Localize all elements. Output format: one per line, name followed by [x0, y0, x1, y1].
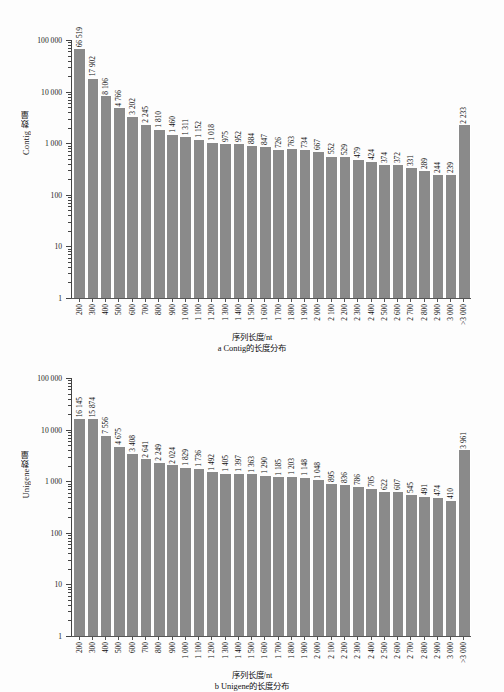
y-axis-minor-tick [68, 231, 71, 232]
y-axis-minor-tick [68, 592, 71, 593]
y-axis-minor-tick [68, 249, 71, 250]
x-axis-tick-label: 700 [141, 304, 150, 315]
bar-value-label: 884 [247, 133, 256, 144]
x-axis-tick-label: 1 700 [274, 642, 283, 659]
x-axis-tick [410, 637, 411, 640]
bar [445, 501, 458, 636]
bar [179, 137, 192, 298]
y-axis-minor-tick [68, 605, 71, 606]
bar [286, 149, 299, 298]
y-axis-minor-tick [68, 405, 71, 406]
bar-value-label: 2 245 [141, 106, 150, 123]
bar-value-label: 1 311 [181, 119, 190, 135]
x-axis-tick [437, 299, 438, 302]
bar-value-label: 952 [234, 131, 243, 142]
x-axis-tick-label: 1 800 [287, 304, 296, 321]
x-axis-tick [92, 637, 93, 640]
bar [140, 459, 153, 636]
y-axis-minor-tick [68, 100, 71, 101]
x-axis-tick-label: 2 000 [313, 642, 322, 659]
y-axis-minor-tick [68, 76, 71, 77]
bar-value-label: 289 [420, 158, 429, 169]
x-axis-tick-label: 1 000 [181, 642, 190, 659]
y-axis-minor-tick [68, 386, 71, 387]
y-axis-tick-label: 100 [6, 528, 62, 537]
bar [299, 150, 312, 298]
bar [259, 147, 272, 298]
y-axis-tick [66, 533, 71, 534]
bar-value-label: 607 [393, 479, 402, 490]
bar-value-label: 7 556 [101, 417, 110, 434]
bar-value-label: 726 [274, 137, 283, 148]
y-axis-minor-tick [68, 206, 71, 207]
x-axis-tick-label: 1 700 [274, 304, 283, 321]
x-axis-tick [79, 637, 80, 640]
bar [432, 175, 445, 298]
x-axis-tick [357, 637, 358, 640]
bar [87, 79, 100, 298]
bar-value-label: 529 [340, 144, 349, 155]
y-axis-tick-label: 1 [6, 632, 62, 641]
y-axis-minor-tick [68, 560, 71, 561]
bar-value-label: 3 202 [128, 98, 137, 115]
bar-value-label: 763 [287, 136, 296, 147]
y-axis-minor-tick [68, 254, 71, 255]
x-axis-tick-label: 2 200 [340, 642, 349, 659]
x-axis-tick-label: 2 800 [420, 304, 429, 321]
bar [193, 140, 206, 298]
bar [246, 474, 259, 636]
y-axis-line [71, 40, 72, 298]
bar [219, 474, 232, 636]
bar-value-label: 2 233 [459, 107, 468, 124]
x-axis-tick-label: 2 700 [406, 304, 415, 321]
x-axis-tick-label: 2 400 [367, 304, 376, 321]
bar [166, 135, 179, 298]
bar-value-label: 479 [353, 147, 362, 158]
x-axis-tick-label: 2 500 [380, 642, 389, 659]
y-axis-tick-label: 100 000 [6, 36, 62, 45]
y-axis-minor-tick [68, 215, 71, 216]
y-axis-minor-tick [68, 112, 71, 113]
y-axis-tick-label: 1 000 [6, 477, 62, 486]
x-axis-tick [371, 299, 372, 302]
bar-value-label: 424 [367, 149, 376, 160]
x-axis-tick [105, 637, 106, 640]
bar-value-label: 2 641 [141, 441, 150, 458]
y-axis-minor-tick [68, 97, 71, 98]
x-axis-tick [397, 637, 398, 640]
bar-value-label: 1 363 [247, 456, 256, 473]
y-axis-tick [66, 298, 71, 299]
bar-value-label: 836 [340, 472, 349, 483]
y-axis-tick-label: 1 000 [6, 139, 62, 148]
x-axis-tick [304, 637, 305, 640]
bar [325, 157, 338, 298]
bar [445, 175, 458, 298]
x-axis-tick-label: 1 200 [207, 642, 216, 659]
bar [352, 487, 365, 636]
y-axis-minor-tick [68, 538, 71, 539]
bar [458, 450, 471, 636]
y-axis-minor-tick [68, 611, 71, 612]
x-axis-tick [264, 299, 265, 302]
y-axis-minor-tick [68, 159, 71, 160]
bar [206, 143, 219, 298]
bar-value-label: 1 810 [154, 111, 163, 128]
x-axis-tick [264, 637, 265, 640]
chart-panel-contig: Contig 数量 1101001 00010 000100 00066 519… [0, 0, 504, 340]
y-axis-minor-tick [68, 119, 71, 120]
bar-value-label: 474 [433, 485, 442, 496]
bar [272, 150, 285, 298]
bar [259, 476, 272, 637]
y-axis-minor-tick [68, 432, 71, 433]
bar [392, 492, 405, 636]
bar [100, 96, 113, 298]
bar [126, 117, 139, 298]
bar-value-label: 1 185 [274, 459, 283, 476]
y-axis-tick [66, 636, 71, 637]
bar-value-label: 374 [380, 152, 389, 163]
y-axis-minor-tick [68, 445, 71, 446]
y-axis-minor-tick [68, 48, 71, 49]
y-axis-tick [66, 40, 71, 41]
y-axis-tick [66, 143, 71, 144]
x-axis-tick [317, 299, 318, 302]
